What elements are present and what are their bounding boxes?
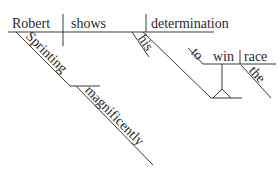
word-race: race xyxy=(244,50,267,64)
pedestal-triangle xyxy=(213,89,231,98)
word-shows: shows xyxy=(71,17,106,31)
word-robert: Robert xyxy=(12,17,50,31)
word-win: win xyxy=(213,50,234,64)
sentence-diagram: Robert shows determination Sprinting mag… xyxy=(0,0,278,175)
word-determination: determination xyxy=(151,17,229,31)
